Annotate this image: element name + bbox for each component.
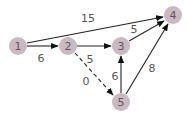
edge-weight-5-4: 8 — [149, 62, 156, 75]
edge-weight-1-4: 15 — [81, 12, 95, 25]
edge-weight-5-3: 6 — [112, 70, 119, 83]
svg-text:5: 5 — [118, 96, 125, 109]
node-5: 5 — [112, 93, 130, 111]
edge-weight-2-5: 0 — [83, 75, 90, 88]
svg-text:4: 4 — [170, 9, 177, 22]
graph-diagram: 15 6 5 5 0 6 8 1 2 3 4 5 — [0, 0, 187, 115]
node-2: 2 — [59, 37, 77, 55]
edge-1-4 — [27, 17, 163, 43]
edge-weight-3-4: 5 — [131, 23, 138, 36]
node-3: 3 — [112, 37, 130, 55]
edge-weight-1-2: 6 — [38, 52, 45, 65]
edge-weight-2-3: 5 — [87, 53, 94, 66]
svg-text:2: 2 — [65, 40, 72, 53]
edge-2-5 — [75, 53, 113, 95]
node-1: 1 — [9, 37, 27, 55]
svg-text:3: 3 — [118, 40, 125, 53]
svg-text:1: 1 — [15, 40, 22, 53]
node-4: 4 — [164, 6, 182, 24]
